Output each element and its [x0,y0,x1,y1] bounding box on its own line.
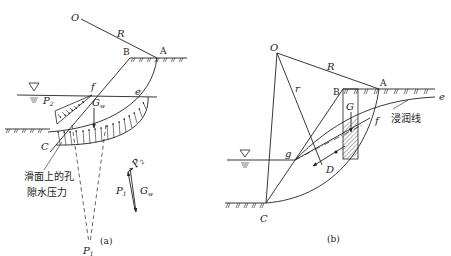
label-C-b: C [260,213,268,224]
p1-dash-left [72,125,89,243]
figure-b: O R r B A G f e g D C 浸润线 (b) [225,42,445,244]
label-f-b: f [374,115,381,126]
label-A-a: A [159,46,167,56]
label-B-b: B [333,87,340,97]
ground-hatch-top-b [344,89,428,94]
label-e-b: e [439,91,445,102]
label-force-P1: P1 [115,185,127,197]
label-R-b: R [326,61,335,72]
label-r-b: r [295,83,301,94]
annotation-pore-pressure-line2: 隙水压力 [27,186,67,198]
label-e-a: e [135,86,141,97]
caption-a: (a) [100,236,112,246]
label-R-a: R [116,28,125,39]
label-P1-a: P1 [82,245,94,256]
label-G-b: G [346,101,354,112]
label-force-Gw: Gw [140,185,154,197]
water-level-icon-b [240,150,250,167]
slope-face-b [266,89,343,203]
ground-hatch-bottom-a [6,129,42,133]
annotation-phreatic-line: 浸润线 [391,112,421,124]
label-force-P2: P2 [129,154,146,171]
seepage-force-D-arrow [313,146,345,166]
line-OC-b [266,53,277,203]
label-O-b: O [270,42,278,53]
label-P2-a: P2 [42,95,54,107]
label-g-b: g [285,148,291,159]
slope-stability-diagram: O R B A f e C P2 Gw P1 P1 P2 Gw 滑面上的孔 隙水… [0,0,451,256]
label-f-a: f [90,81,97,92]
caption-b: (b) [327,234,340,244]
label-O-a: O [71,12,79,23]
label-Gw-a: Gw [92,97,106,109]
figure-a: O R B A f e C P2 Gw P1 P1 P2 Gw 滑面上的孔 隙水… [5,12,187,256]
slice-hatch-b [343,117,358,159]
water-level-icon-a [29,83,39,102]
annotation-pore-pressure-line1: 滑面上的孔 [24,170,74,182]
label-A-b: A [379,78,387,88]
ground-hatch-bottom-b [226,203,264,208]
pressure-arrows-p2 [58,101,84,118]
label-B-a: B [123,47,130,57]
label-C-a: C [41,141,49,152]
force-polygon-a [128,168,136,212]
slope-face-a [50,58,130,152]
label-D-b: D [325,164,334,175]
